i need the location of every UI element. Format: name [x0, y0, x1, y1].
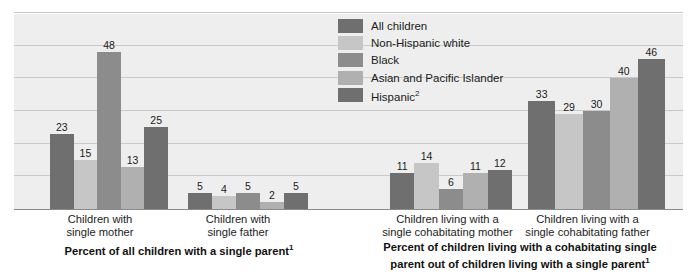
category-label-line: single father — [158, 226, 318, 239]
category-label: Children living with asingle cohabitatin… — [500, 213, 675, 239]
bar-slot: 48 — [97, 14, 121, 209]
bar-value-label: 48 — [97, 40, 121, 51]
bar[interactable] — [74, 160, 98, 209]
legend-item-label: Non-Hispanic white — [371, 37, 470, 49]
section-caption-left: Percent of all children with a single pa… — [14, 241, 344, 258]
bar-value-label: 15 — [74, 148, 98, 159]
bar[interactable] — [638, 59, 665, 209]
bar-value-label: 30 — [583, 99, 610, 110]
legend-item[interactable]: All children — [338, 17, 548, 34]
bar-value-label: 13 — [121, 155, 145, 166]
category-label: Children withsingle mother — [20, 213, 180, 239]
bar-group: 54525 — [188, 14, 308, 209]
bar[interactable] — [284, 193, 308, 209]
legend-item[interactable]: Asian and Pacific Islander — [338, 69, 548, 86]
bar-value-label: 11 — [390, 161, 414, 172]
category-label-line: single cohabitating father — [500, 226, 675, 239]
bar-slot: 2 — [260, 14, 284, 209]
legend-swatch-icon — [338, 19, 363, 33]
bar-slot: 29 — [555, 14, 582, 209]
bar-value-label: 4 — [212, 184, 236, 195]
bar-value-label: 11 — [463, 161, 487, 172]
bar[interactable] — [583, 111, 610, 209]
caption-line: parent out of children living with a sin… — [355, 254, 685, 271]
bar-value-label: 2 — [260, 190, 284, 201]
chart-legend: All childrenNon-Hispanic whiteBlackAsian… — [338, 17, 548, 104]
bar-slot: 23 — [50, 14, 74, 209]
bar-slot: 4 — [212, 14, 236, 209]
bar-slot: 40 — [610, 14, 637, 209]
category-label-line: Children with — [158, 213, 318, 226]
bar-value-label: 5 — [188, 181, 212, 192]
bar[interactable] — [439, 189, 463, 209]
bar[interactable] — [97, 52, 121, 209]
bar-slot: 46 — [638, 14, 665, 209]
bar-group: 2315481325 — [50, 14, 168, 209]
category-label-line: single mother — [20, 226, 180, 239]
bar[interactable] — [463, 173, 487, 209]
bar-value-label: 23 — [50, 122, 74, 133]
legend-item[interactable]: Hispanic2 — [338, 87, 548, 104]
bar-value-label: 5 — [236, 181, 260, 192]
caption-line: Percent of children living with a cohabi… — [355, 241, 685, 254]
legend-item-label: Asian and Pacific Islander — [371, 72, 503, 84]
gridline — [14, 12, 683, 13]
legend-swatch-icon — [338, 53, 363, 67]
bar[interactable] — [50, 134, 74, 209]
bar-slot: 30 — [583, 14, 610, 209]
category-labels: Children withsingle motherChildren withs… — [0, 213, 697, 243]
section-caption-right: Percent of children living with a cohabi… — [355, 241, 685, 272]
bar-value-label: 25 — [144, 115, 168, 126]
legend-item-label: All children — [371, 20, 427, 32]
bar-slot: 13 — [121, 14, 145, 209]
bar[interactable] — [414, 163, 438, 209]
bar-slot: 15 — [74, 14, 98, 209]
bar-value-label: 14 — [414, 151, 438, 162]
bar-slot: 5 — [188, 14, 212, 209]
bar[interactable] — [212, 196, 236, 209]
legend-swatch-icon — [338, 36, 363, 50]
bar[interactable] — [236, 193, 260, 209]
legend-item[interactable]: Black — [338, 52, 548, 69]
caption-line: Percent of all children with a single pa… — [14, 241, 344, 258]
bar[interactable] — [144, 127, 168, 209]
legend-item-label: Black — [371, 54, 399, 66]
bar[interactable] — [528, 101, 555, 209]
bar[interactable] — [555, 114, 582, 209]
legend-swatch-icon — [338, 71, 363, 85]
bar-value-label: 6 — [439, 177, 463, 188]
legend-item[interactable]: Non-Hispanic white — [338, 34, 548, 51]
bar-value-label: 5 — [284, 181, 308, 192]
legend-item-label: Hispanic2 — [371, 88, 420, 103]
bar[interactable] — [488, 170, 512, 209]
bar-value-label: 29 — [555, 102, 582, 113]
bar[interactable] — [121, 167, 145, 209]
bar-chart: 2315481325545251114611123329304046 All c… — [0, 0, 697, 272]
bar-slot: 25 — [144, 14, 168, 209]
bar[interactable] — [188, 193, 212, 209]
bar-slot: 5 — [236, 14, 260, 209]
bar-value-label: 40 — [610, 66, 637, 77]
bar-slot: 5 — [284, 14, 308, 209]
bar[interactable] — [390, 173, 414, 209]
category-label-line: Children living with a — [500, 213, 675, 226]
bar-group: 3329304046 — [528, 14, 665, 209]
bar[interactable] — [610, 78, 637, 209]
legend-swatch-icon — [338, 88, 363, 102]
bar-value-label: 12 — [488, 158, 512, 169]
bar-value-label: 46 — [638, 47, 665, 58]
bar[interactable] — [260, 202, 284, 209]
category-label: Children withsingle father — [158, 213, 318, 239]
category-label-line: Children with — [20, 213, 180, 226]
